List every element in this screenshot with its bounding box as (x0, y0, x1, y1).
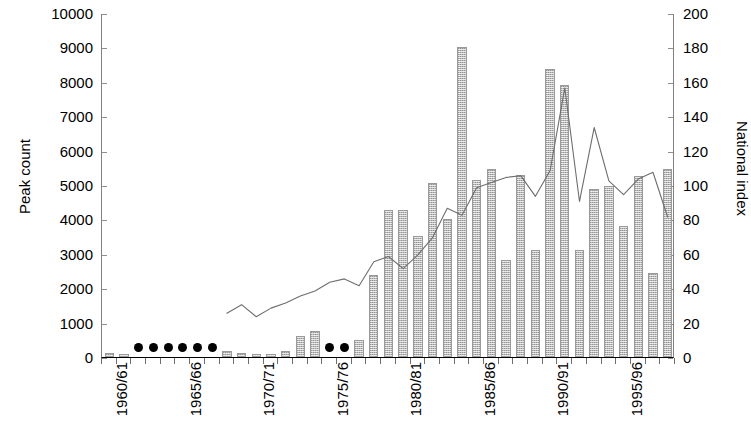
bar (634, 176, 643, 357)
x-axis-tickmark (674, 358, 675, 364)
y-axis-left-title: Peak count (16, 117, 33, 237)
bar (545, 69, 554, 357)
y-axis-left-tick-7000: 7000 (31, 109, 93, 124)
y-axis-right-tick-140: 140 (683, 109, 745, 124)
bar (575, 250, 584, 357)
y-axis-left-tick-3000: 3000 (31, 247, 93, 262)
y-axis-right-tick-160: 160 (683, 75, 745, 90)
bar (428, 183, 437, 357)
bar (560, 85, 569, 357)
missing-data-dot (178, 343, 187, 352)
y-left-tickmark (102, 117, 107, 118)
bar (237, 353, 246, 357)
bar (487, 169, 496, 357)
y-axis-right-tick-40: 40 (683, 281, 745, 296)
missing-data-dot (164, 343, 173, 352)
bar (398, 210, 407, 357)
bar (281, 351, 290, 357)
x-axis-label-1980-81: 1980/81 (408, 362, 423, 416)
bar (457, 47, 466, 357)
y-axis-right-tick-200: 200 (683, 6, 745, 21)
y-axis-right-tick-120: 120 (683, 144, 745, 159)
missing-data-dot (208, 343, 217, 352)
missing-data-dot (193, 343, 202, 352)
y-axis-left-tick-6000: 6000 (31, 144, 93, 159)
bar (119, 354, 128, 357)
bar (604, 186, 613, 357)
missing-data-dot (149, 343, 158, 352)
y-axis-right-tick-20: 20 (683, 316, 745, 331)
y-right-tickmark (668, 152, 673, 153)
missing-data-dot (340, 343, 349, 352)
plot-area (101, 14, 674, 358)
missing-data-dot (134, 343, 143, 352)
y-axis-left-tick-10000: 10000 (31, 6, 93, 21)
bar (443, 219, 452, 357)
y-left-tickmark (102, 324, 107, 325)
bar (384, 210, 393, 357)
bar (105, 353, 114, 357)
x-axis-label-1960-61: 1960/61 (114, 362, 129, 416)
bar (619, 226, 628, 357)
bar (531, 250, 540, 357)
y-left-tickmark (102, 83, 107, 84)
bar (472, 180, 481, 358)
y-left-tickmark (102, 152, 107, 153)
y-axis-left-tick-1000: 1000 (31, 316, 93, 331)
y-left-tickmark (102, 48, 107, 49)
y-axis-left-tick-9000: 9000 (31, 40, 93, 55)
x-axis-label-1995-96: 1995/96 (629, 362, 644, 416)
bar (501, 260, 510, 357)
y-left-tickmark (102, 289, 107, 290)
missing-data-dot (325, 343, 334, 352)
bar (252, 354, 261, 357)
y-axis-right-tick-100: 100 (683, 178, 745, 193)
bar (310, 331, 319, 357)
x-axis-label-1985-86: 1985/86 (482, 362, 497, 416)
y-axis-right-tick-0: 0 (683, 350, 745, 365)
bar (648, 273, 657, 357)
bar (354, 340, 363, 357)
y-left-tickmark (102, 220, 107, 221)
bar (589, 189, 598, 357)
bar (222, 351, 231, 357)
x-axis-label-1990-91: 1990/91 (555, 362, 570, 416)
x-axis-label-1970-71: 1970/71 (261, 362, 276, 416)
x-axis-tick-labels: 1960/611965/661970/711975/761980/811985/… (101, 362, 674, 439)
y-right-tickmark (668, 117, 673, 118)
y-right-tickmark (668, 48, 673, 49)
x-axis-label-1965-66: 1965/66 (188, 362, 203, 416)
y-axis-right-tick-80: 80 (683, 212, 745, 227)
y-axis-left-tick-5000: 5000 (31, 178, 93, 193)
y-axis-right-tick-180: 180 (683, 40, 745, 55)
y-axis-left-tick-0: 0 (31, 350, 93, 365)
y-left-tickmark (102, 186, 107, 187)
bar (663, 169, 672, 357)
y-axis-right-tick-60: 60 (683, 247, 745, 262)
y-right-tickmark (668, 14, 673, 15)
bar (516, 175, 525, 357)
y-right-tickmark (668, 83, 673, 84)
y-axis-left-tick-8000: 8000 (31, 75, 93, 90)
bar (413, 236, 422, 357)
y-left-tickmark (102, 14, 107, 15)
bar (266, 354, 275, 357)
y-axis-left-tick-4000: 4000 (31, 212, 93, 227)
y-left-tickmark (102, 255, 107, 256)
bar (296, 336, 305, 357)
plot-inner (102, 14, 673, 357)
x-axis-label-1975-76: 1975/76 (335, 362, 350, 416)
y-axis-left-tick-2000: 2000 (31, 281, 93, 296)
bar (369, 275, 378, 357)
